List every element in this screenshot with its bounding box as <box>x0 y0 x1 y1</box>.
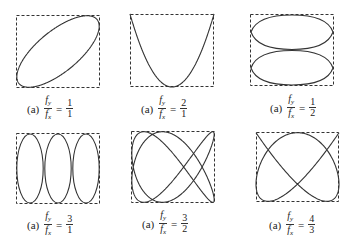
frequency-fraction: fy fx <box>287 94 295 121</box>
lissajous-curve <box>17 16 99 88</box>
dashed-frame <box>17 134 100 204</box>
lissajous-curve <box>130 14 214 87</box>
dashed-frame <box>131 15 214 87</box>
lissajous-curve <box>17 134 99 203</box>
panel-ratio-3-2 <box>131 131 215 203</box>
caption-label: (a) <box>27 103 39 115</box>
lissajous-plot <box>250 14 334 86</box>
lissajous-plot <box>256 132 339 202</box>
ratio-value: 1 1 <box>66 98 73 119</box>
lissajous-curve <box>256 133 339 202</box>
frequency-fraction: fy fx <box>159 210 167 237</box>
caption-label: (a) <box>141 103 153 115</box>
caption-label: (a) <box>27 219 39 231</box>
caption-1: (a) fy fx = 1 1 <box>27 95 73 122</box>
caption-5: (a) fy fx = 3 2 <box>142 210 188 237</box>
lissajous-plot <box>16 15 100 88</box>
panel-ratio-3-1 <box>16 133 100 204</box>
caption-label: (a) <box>270 102 282 114</box>
lissajous-plot <box>16 133 100 204</box>
ratio-value: 4 3 <box>308 214 315 235</box>
ratio-value: 3 2 <box>181 213 188 234</box>
panel-ratio-1-1 <box>16 15 100 88</box>
caption-3: (a) fy fx = 1 2 <box>270 94 316 121</box>
frequency-fraction: fy fx <box>44 95 52 122</box>
lissajous-curve <box>132 132 214 203</box>
caption-6: (a) fy fx = 4 3 <box>269 211 315 238</box>
ratio-value: 2 1 <box>180 98 187 119</box>
frequency-fraction: fy fx <box>44 211 52 238</box>
lissajous-plot <box>130 14 214 87</box>
panel-ratio-4-3 <box>256 132 339 202</box>
panel-ratio-2-1 <box>130 14 214 87</box>
caption-4: (a) fy fx = 3 1 <box>27 211 73 238</box>
lissajous-plot <box>131 131 215 203</box>
frequency-fraction: fy fx <box>286 211 294 238</box>
dashed-frame <box>257 133 339 202</box>
caption-2: (a) fy fx = 2 1 <box>141 95 187 122</box>
ratio-value: 3 1 <box>66 214 73 235</box>
ratio-value: 1 2 <box>309 97 316 118</box>
frequency-fraction: fy fx <box>158 95 166 122</box>
panel-ratio-1-2 <box>250 14 334 86</box>
lissajous-curve <box>251 15 333 85</box>
caption-label: (a) <box>269 219 281 231</box>
caption-label: (a) <box>142 218 154 230</box>
